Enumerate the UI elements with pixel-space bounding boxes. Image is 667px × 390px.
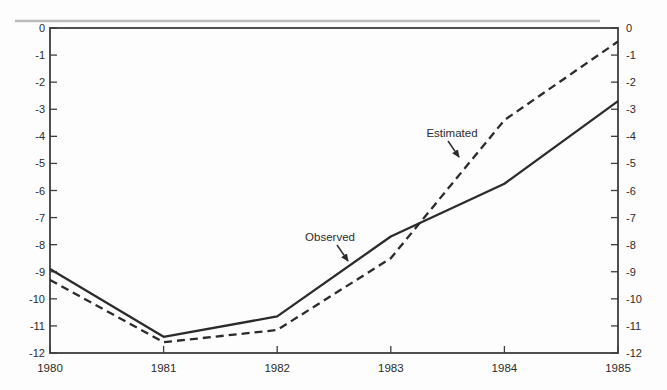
y-tick-label-right: -9 — [626, 266, 636, 278]
x-tick-label: 1982 — [264, 362, 290, 374]
scanned-chart-page: 00-1-1-2-2-3-3-4-4-5-5-6-6-7-7-8-8-9-9-1… — [0, 0, 667, 390]
y-ticks — [50, 28, 618, 353]
x-tick-label: 1981 — [151, 362, 177, 374]
y-tick-label-right: -5 — [626, 157, 636, 169]
x-tick-labels: 198019811982198319841985 — [37, 362, 631, 374]
line-chart: 00-1-1-2-2-3-3-4-4-5-5-6-6-7-7-8-8-9-9-1… — [0, 0, 667, 390]
y-tick-label-left: 0 — [39, 22, 45, 34]
y-tick-label-right: -12 — [626, 347, 642, 359]
y-tick-label-right: -3 — [626, 103, 636, 115]
observed-line — [50, 101, 618, 337]
estimated-label: Estimated — [426, 127, 477, 139]
plot-frame — [50, 28, 618, 353]
y-tick-label-left: -11 — [30, 320, 45, 332]
y-tick-label-left: -5 — [35, 157, 45, 169]
y-tick-label-left: -8 — [35, 239, 45, 251]
estimated-annotation: Estimated — [426, 127, 477, 157]
y-tick-label-right: -10 — [626, 293, 642, 305]
y-tick-label-left: -2 — [35, 76, 45, 88]
y-tick-label-left: -12 — [29, 347, 45, 359]
x-tick-label: 1985 — [605, 362, 631, 374]
y-tick-label-right: -2 — [626, 76, 636, 88]
x-tick-label: 1980 — [37, 362, 63, 374]
observed-annotation: Observed — [305, 231, 355, 261]
y-tick-label-right: -1 — [626, 49, 636, 61]
x-tick-label: 1984 — [492, 362, 518, 374]
y-tick-label-right: -11 — [626, 320, 641, 332]
y-tick-label-left: -7 — [35, 212, 45, 224]
y-tick-label-left: -3 — [35, 103, 45, 115]
y-tick-label-left: -6 — [35, 185, 45, 197]
y-tick-label-right: -6 — [626, 185, 636, 197]
y-tick-label-right: -7 — [626, 212, 636, 224]
x-ticks — [50, 346, 618, 353]
y-tick-label-left: -4 — [35, 130, 45, 142]
y-tick-labels: 00-1-1-2-2-3-3-4-4-5-5-6-6-7-7-8-8-9-9-1… — [29, 22, 642, 359]
estimated-line — [50, 42, 618, 343]
y-tick-label-right: 0 — [626, 22, 632, 34]
observed-arrow — [337, 245, 348, 261]
y-tick-label-left: -9 — [35, 266, 45, 278]
y-tick-label-right: -4 — [626, 130, 636, 142]
observed-label: Observed — [305, 231, 355, 243]
y-tick-label-left: -1 — [35, 49, 45, 61]
x-tick-label: 1983 — [378, 362, 404, 374]
estimated-arrow — [448, 141, 459, 157]
y-tick-label-left: -10 — [29, 293, 45, 305]
y-tick-label-right: -8 — [626, 239, 636, 251]
